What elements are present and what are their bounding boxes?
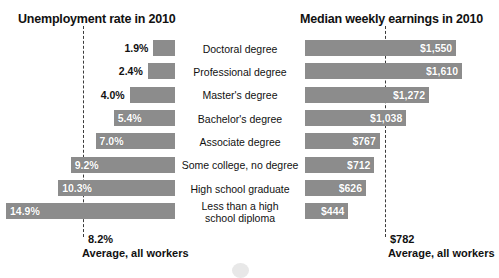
- left-panel-title: Unemployment rate in 2010: [18, 12, 176, 26]
- unemployment-bar: [130, 87, 175, 103]
- earnings-bar-track: $626: [305, 178, 495, 201]
- right-panel-title: Median weekly earnings in 2010: [300, 12, 483, 26]
- unemployment-bar-track: 10.3%: [0, 178, 175, 201]
- category-label: Doctoral degree: [179, 38, 301, 61]
- earnings-value-label: $712: [347, 158, 370, 172]
- earnings-value-label: $1,038: [370, 111, 402, 125]
- unemployment-bar-track: 1.9%: [0, 38, 175, 61]
- unemployment-bar-track: 4.0%: [0, 85, 175, 108]
- chart-row: 9.2%Some college, no degree$712: [0, 155, 499, 178]
- earnings-value-label: $1,272: [393, 88, 425, 102]
- unemployment-value-label: 1.9%: [125, 41, 149, 55]
- earnings-value-label: $1,610: [426, 64, 458, 78]
- earnings-value-label: $444: [321, 204, 344, 218]
- unemployment-average-caption: Average, all workers: [82, 247, 189, 259]
- page-artifact: [232, 263, 249, 278]
- earnings-bar-track: $1,272: [305, 85, 495, 108]
- chart-row: 4.0%Master's degree$1,272: [0, 85, 499, 108]
- earnings-average-caption: Average, all workers: [388, 247, 495, 259]
- category-label: Bachelor's degree: [179, 108, 301, 131]
- chart-row: 10.3%High school graduate$626: [0, 178, 499, 201]
- earnings-value-label: $626: [339, 181, 362, 195]
- earnings-value-label: $767: [352, 134, 375, 148]
- unemployment-bar-track: 14.9%: [0, 201, 175, 224]
- unemployment-value-label: 10.3%: [62, 181, 92, 195]
- chart-row: 14.9%Less than a high school diploma$444: [0, 201, 499, 224]
- earnings-bar-track: $1,550: [305, 38, 495, 61]
- unemployment-bar-track: 5.4%: [0, 108, 175, 131]
- earnings-bar-track: $1,610: [305, 61, 495, 84]
- unemployment-value-label: 9.2%: [75, 158, 99, 172]
- category-label: Master's degree: [179, 85, 301, 108]
- unemployment-average-value: 8.2%: [88, 233, 189, 245]
- unemployment-value-label: 14.9%: [10, 204, 40, 218]
- chart-row: 2.4%Professional degree$1,610: [0, 61, 499, 84]
- earnings-value-label: $1,550: [420, 41, 452, 55]
- category-label: Less than a high school diploma: [179, 201, 301, 224]
- unemployment-value-label: 7.0%: [100, 134, 124, 148]
- unemployment-value-label: 2.4%: [119, 64, 143, 78]
- unemployment-bar: [153, 40, 175, 56]
- earnings-bar-track: $1,038: [305, 108, 495, 131]
- unemployment-value-label: 4.0%: [101, 88, 125, 102]
- earnings-average-value: $782: [390, 233, 495, 245]
- unemployment-value-label: 5.4%: [118, 111, 142, 125]
- chart-row: 5.4%Bachelor's degree$1,038: [0, 108, 499, 131]
- earnings-average-annotation: $782 Average, all workers: [390, 233, 495, 259]
- unemployment-bar-track: 2.4%: [0, 61, 175, 84]
- category-label: Associate degree: [179, 131, 301, 154]
- earnings-bar-track: $712: [305, 155, 495, 178]
- chart-row: 1.9%Doctoral degree$1,550: [0, 38, 499, 61]
- category-label: Some college, no degree: [179, 155, 301, 178]
- chart-row: 7.0%Associate degree$767: [0, 131, 499, 154]
- unemployment-bar-track: 9.2%: [0, 155, 175, 178]
- unemployment-bar: [148, 63, 175, 79]
- unemployment-average-annotation: 8.2% Average, all workers: [88, 233, 189, 259]
- category-label: High school graduate: [179, 178, 301, 201]
- unemployment-bar-track: 7.0%: [0, 131, 175, 154]
- earnings-bar-track: $767: [305, 131, 495, 154]
- category-label: Professional degree: [179, 61, 301, 84]
- earnings-bar-track: $444: [305, 201, 495, 224]
